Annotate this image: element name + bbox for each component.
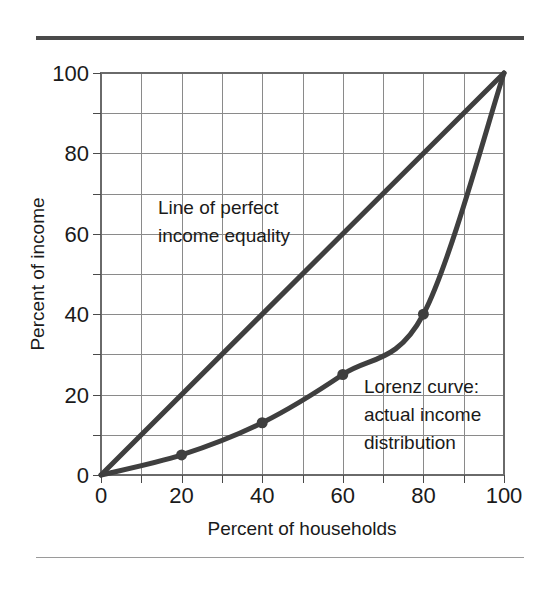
lorenz-curve-chart: 0 20 40 60 80 100 0 20 40 60 80 100 Perc… [0, 0, 551, 591]
x-tick-label-40: 40 [250, 483, 274, 508]
x-axis-title: Percent of households [207, 518, 396, 539]
x-tick-label-100: 100 [486, 483, 523, 508]
y-axis-title: Percent of income [27, 197, 48, 350]
lorenz-data-point [176, 449, 187, 460]
y-tick-label-100: 100 [52, 61, 89, 86]
y-tick-label-80: 80 [65, 141, 89, 166]
x-axis-tick-marks [102, 475, 505, 483]
annotation-equality-line-1: Line of perfect [158, 197, 279, 218]
x-tick-label-0: 0 [95, 483, 107, 508]
lorenz-data-point [418, 309, 429, 320]
x-tick-label-80: 80 [411, 483, 435, 508]
y-tick-label-60: 60 [65, 222, 89, 247]
annotation-equality-line-2: income equality [158, 225, 291, 246]
annotation-lorenz-line-3: distribution [364, 432, 456, 453]
chart-plot-area: 0 20 40 60 80 100 0 20 40 60 80 100 Perc… [0, 0, 551, 591]
y-axis-tick-marks [93, 74, 101, 476]
y-tick-label-0: 0 [77, 463, 89, 488]
x-tick-label-20: 20 [169, 483, 193, 508]
lorenz-data-point [337, 369, 348, 380]
annotation-lorenz-line-1: Lorenz curve: [364, 376, 479, 397]
lorenz-data-point [257, 417, 268, 428]
annotation-lorenz-line-2: actual income [364, 404, 481, 425]
x-tick-label-60: 60 [331, 483, 355, 508]
y-tick-label-20: 20 [65, 383, 89, 408]
figure-container: 0 20 40 60 80 100 0 20 40 60 80 100 Perc… [0, 0, 551, 591]
y-tick-label-40: 40 [65, 302, 89, 327]
